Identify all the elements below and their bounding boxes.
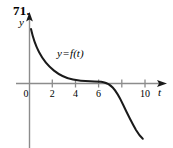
plot-svg (0, 0, 173, 148)
x-axis-label: t (158, 86, 161, 98)
x-tick-label-2: 2 (44, 88, 60, 99)
figure-container: 71. y t 0 2 4 6 10 y=f(t) (0, 0, 173, 148)
curve-equation-label: y=f(t) (57, 47, 84, 59)
x-tick-label-4: 4 (68, 88, 84, 99)
y-axis-label: y (19, 16, 24, 28)
curve-equation-equals: = (62, 47, 70, 59)
origin-tick-label: 0 (18, 88, 34, 99)
curve-equation-close-paren: ) (80, 47, 84, 59)
x-tick-label-10: 10 (137, 88, 153, 99)
x-tick-label-6: 6 (91, 88, 107, 99)
